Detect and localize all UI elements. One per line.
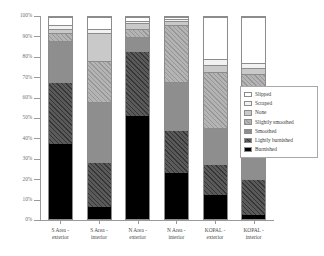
bar-segment-burnished (242, 215, 265, 219)
bar-segment-none (242, 68, 265, 74)
x-axis-tick (254, 220, 255, 224)
legend-swatch-lightly-burnished (244, 138, 252, 143)
bar-segment-burnished (165, 173, 188, 219)
bar-segment-burnished (49, 144, 72, 219)
legend-item-scraped[interactable]: Scraped (244, 99, 314, 108)
bar-segment-slipped (204, 17, 227, 59)
x-axis-label: KOPAL -interior (227, 227, 281, 241)
y-axis-tick (34, 220, 40, 221)
legend-swatch-scraped (244, 101, 252, 106)
legend-item-lightly-burnished[interactable]: Lightly burnished (244, 136, 314, 145)
bar-s-area-exterior[interactable] (48, 16, 73, 220)
bar-segment-slipped (88, 17, 111, 29)
bar-segment-burnished (88, 207, 111, 219)
bar-segment-lightly-burnished (88, 162, 111, 206)
x-axis-label-line: KOPAL - (227, 227, 281, 234)
bar-segment-scraped (165, 19, 188, 21)
x-axis-tick (176, 220, 177, 224)
y-axis-label: 100% (20, 13, 32, 18)
bar-segment-scraped (204, 59, 227, 65)
legend-label: Slipped (255, 92, 271, 97)
bar-segment-burnished (126, 116, 149, 219)
legend-label: None (255, 110, 266, 115)
legend-swatch-slightly-smoothed (244, 119, 252, 124)
y-axis-tick (34, 138, 40, 139)
legend-item-smoothed[interactable]: Smoothed (244, 127, 314, 136)
bar-kopal-exterior[interactable] (203, 16, 228, 220)
bar-segment-lightly-burnished (204, 164, 227, 194)
legend-swatch-slipped (244, 92, 252, 97)
bar-segment-none (165, 21, 188, 25)
legend-item-slightly-smoothed[interactable]: Slightly smoothed (244, 118, 314, 127)
y-axis-label: 80% (23, 54, 32, 59)
legend-label: Slightly smoothed (255, 120, 294, 125)
bar-segment-smoothed (165, 82, 188, 130)
y-axis-label: 60% (23, 95, 32, 100)
y-axis-tick (34, 98, 40, 99)
y-axis-tick (34, 159, 40, 160)
x-axis-tick (138, 220, 139, 224)
stacked-bar-chart: 100%90%80%70%60%50%40%30%20%10%0% S Area… (0, 0, 324, 256)
y-axis-label: 90% (23, 34, 32, 39)
y-axis-label: 50% (23, 115, 32, 120)
bar-n-area-interior[interactable] (164, 16, 189, 220)
chart-legend: SlippedScrapedNoneSlightly smoothedSmoot… (240, 86, 318, 158)
bar-segment-slightly-smoothed (88, 61, 111, 101)
plot-area (41, 16, 273, 220)
bar-segment-smoothed (126, 37, 149, 51)
bar-segment-none (204, 65, 227, 71)
bar-segment-scraped (242, 63, 265, 67)
x-axis-tick (215, 220, 216, 224)
bar-segment-slightly-smoothed (126, 29, 149, 37)
bar-segment-burnished (204, 195, 227, 219)
legend-swatch-none (244, 110, 252, 115)
bar-segment-lightly-burnished (242, 179, 265, 215)
legend-item-burnished[interactable]: Burnished (244, 145, 314, 154)
x-axis-tick (99, 220, 100, 224)
y-axis-label: 30% (23, 156, 32, 161)
bar-segment-slightly-smoothed (204, 72, 227, 129)
bar-segment-slightly-smoothed (49, 33, 72, 41)
bar-segment-none (88, 33, 111, 61)
bar-segment-smoothed (49, 41, 72, 81)
y-axis-tick (34, 16, 40, 17)
legend-label: Scraped (255, 101, 272, 106)
bar-segment-lightly-burnished (126, 51, 149, 116)
legend-label: Burnished (255, 147, 277, 152)
x-axis-tick (60, 220, 61, 224)
bar-segment-slipped (165, 17, 188, 19)
bar-segment-none (126, 23, 149, 29)
legend-label: Smoothed (255, 129, 276, 134)
bar-segment-scraped (126, 21, 149, 23)
y-axis-tick (34, 200, 40, 201)
bar-segment-slightly-smoothed (165, 25, 188, 82)
bar-segment-scraped (88, 29, 111, 33)
y-axis-tick (34, 179, 40, 180)
bar-segment-slipped (242, 17, 265, 63)
x-axis-line (40, 220, 274, 221)
bar-n-area-exterior[interactable] (125, 16, 150, 220)
bar-segment-slipped (49, 17, 72, 25)
x-axis-label-line: interior (227, 234, 281, 241)
y-axis-label: 20% (23, 177, 32, 182)
legend-label: Lightly burnished (255, 138, 293, 143)
legend-swatch-smoothed (244, 129, 252, 134)
bar-segment-smoothed (204, 128, 227, 164)
y-axis-tick (34, 118, 40, 119)
bar-segment-none (49, 29, 72, 33)
bar-segment-smoothed (88, 102, 111, 163)
bar-segment-scraped (49, 25, 72, 29)
bar-s-area-interior[interactable] (87, 16, 112, 220)
y-axis-label: 70% (23, 75, 32, 80)
y-axis-tick (34, 77, 40, 78)
y-axis-label: 0% (25, 217, 32, 222)
y-axis-label: 40% (23, 136, 32, 141)
bar-segment-lightly-burnished (165, 130, 188, 172)
y-axis-tick (34, 36, 40, 37)
bar-segment-slipped (126, 17, 149, 21)
legend-item-none[interactable]: None (244, 108, 314, 117)
legend-item-slipped[interactable]: Slipped (244, 90, 314, 99)
y-axis-tick (34, 57, 40, 58)
legend-swatch-burnished (244, 147, 252, 152)
bar-segment-lightly-burnished (49, 82, 72, 145)
